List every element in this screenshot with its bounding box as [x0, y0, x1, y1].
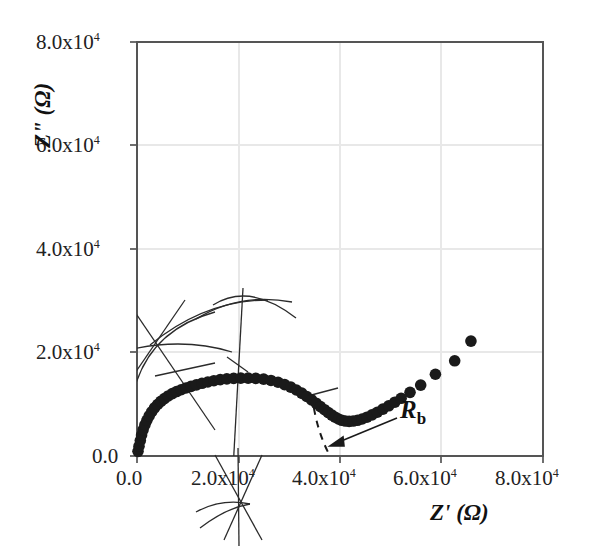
ytick-label-0: 0.0 [92, 444, 118, 469]
ytick-label-2: 4.0x104 [36, 237, 100, 262]
grid-lines [137, 42, 543, 456]
ytick-label-1: 2.0x104 [36, 340, 100, 365]
xtick-label-0: 0.0 [116, 466, 142, 491]
data-point [415, 379, 427, 391]
data-point [430, 368, 442, 380]
axis-ticks [130, 42, 543, 463]
xtick-label-2: 4.0x104 [292, 466, 356, 491]
rb-annotation-label: Rb [400, 396, 426, 424]
y-axis-title: Z" (Ω) [30, 83, 56, 148]
figure-root: 8.0x104 6.0x104 4.0x104 2.0x104 0.0 0.0 … [0, 0, 593, 548]
xtick-label-4: 8.0x104 [495, 466, 559, 491]
data-point [449, 355, 461, 367]
x-axis-title: Z' (Ω) [430, 500, 489, 526]
handdrawn-artifacts-lower [196, 448, 262, 546]
data-point [465, 335, 477, 347]
xtick-label-1: 2.0x104 [191, 466, 255, 491]
xtick-label-3: 6.0x104 [393, 466, 457, 491]
ytick-label-4: 8.0x104 [36, 30, 100, 55]
